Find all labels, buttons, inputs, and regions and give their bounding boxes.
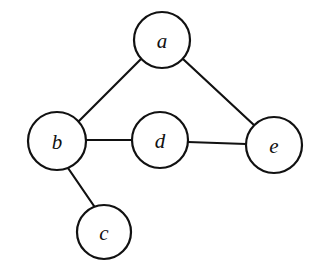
node-a[interactable]: a [134,12,190,68]
node-e[interactable]: e [246,117,302,173]
node-c-label: c [99,221,109,245]
node-d[interactable]: d [132,112,188,168]
node-a-label: a [157,29,168,53]
node-d-label: d [155,129,166,153]
graph-diagram: a b c d e [0,0,310,264]
edge-a-b [78,59,141,122]
node-b-label: b [52,130,63,154]
nodes-group: a b c d e [28,12,302,259]
node-c[interactable]: c [77,205,131,259]
edge-d-e [188,142,246,144]
graph-canvas: a b c d e [0,0,310,264]
edge-b-c [68,168,94,206]
edge-a-e [183,59,255,126]
node-e-label: e [269,134,278,158]
node-b[interactable]: b [28,112,86,170]
